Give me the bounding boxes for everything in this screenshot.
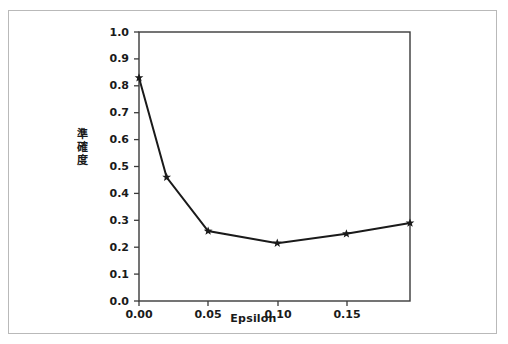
x-axis-title: Epsilon [9, 312, 498, 325]
plot-area [139, 32, 410, 301]
y-axis-title-char-3: 度 [74, 154, 90, 167]
y-tick-label-0.1: 0.1 [95, 268, 129, 281]
y-tick-label-0.3: 0.3 [95, 214, 129, 227]
y-tick-marks [134, 32, 139, 301]
chart-figure: 1.0 0.9 0.8 0.7 0.6 0.5 0.4 0.3 0.2 0.1 … [9, 11, 498, 335]
y-tick-label-0.9: 0.9 [95, 52, 129, 65]
y-tick-label-0.6: 0.6 [95, 133, 129, 146]
x-tick-marks [139, 301, 347, 306]
y-tick-label-0.4: 0.4 [95, 187, 129, 200]
y-tick-label-1.0: 1.0 [95, 26, 129, 39]
y-axis-title-char-2: 確 [74, 141, 90, 154]
y-tick-label-0.2: 0.2 [95, 241, 129, 254]
y-tick-label-0.5: 0.5 [95, 160, 129, 173]
y-axis-title: 準 確 度 [74, 128, 90, 167]
y-tick-label-0.8: 0.8 [95, 79, 129, 92]
y-tick-label-0.0: 0.0 [95, 295, 129, 308]
y-axis-title-char-1: 準 [74, 128, 90, 141]
y-tick-label-0.7: 0.7 [95, 106, 129, 119]
figure-border: 1.0 0.9 0.8 0.7 0.6 0.5 0.4 0.3 0.2 0.1 … [8, 10, 497, 334]
chart-canvas [9, 11, 498, 335]
